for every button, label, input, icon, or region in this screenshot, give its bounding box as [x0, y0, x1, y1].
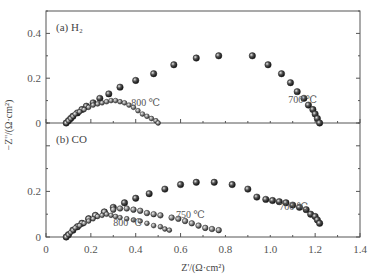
y-tick-label: 0.2	[27, 72, 41, 84]
x-tick-label: 0.4	[129, 243, 143, 255]
data-point	[167, 228, 172, 233]
data-point	[145, 114, 150, 119]
y-tick-label: 0	[36, 117, 42, 129]
x-tick-label: 0.6	[174, 243, 188, 255]
data-point	[287, 79, 293, 85]
data-point	[158, 224, 163, 229]
data-point	[95, 102, 100, 107]
data-point	[77, 223, 82, 228]
data-point	[140, 112, 145, 117]
data-point	[133, 195, 139, 201]
data-point	[151, 223, 156, 228]
data-point	[162, 227, 167, 232]
data-point	[269, 197, 275, 203]
data-point	[316, 120, 322, 126]
data-point	[86, 219, 91, 224]
data-point	[196, 223, 202, 229]
data-point	[245, 186, 251, 192]
data-point	[158, 213, 164, 219]
data-point	[73, 225, 78, 230]
data-point	[193, 55, 199, 61]
data-point	[278, 71, 284, 77]
series-annotation: 700 ℃	[288, 94, 317, 105]
y-tick-label: 0.4	[27, 27, 41, 39]
data-point	[150, 71, 156, 77]
panel-label: (a) H₂	[56, 21, 83, 34]
y-tick-label: 0.2	[27, 185, 41, 197]
data-point	[202, 225, 208, 231]
data-point	[122, 100, 127, 105]
data-point	[265, 62, 271, 68]
data-point	[151, 211, 157, 217]
series-annotation: 700 ℃	[279, 201, 308, 212]
data-point	[118, 99, 123, 104]
data-point	[86, 105, 91, 110]
data-point	[177, 181, 183, 187]
data-point	[249, 53, 255, 59]
data-point	[145, 221, 150, 226]
data-point	[136, 108, 141, 113]
data-point	[77, 109, 82, 114]
data-point	[113, 98, 118, 103]
data-point	[144, 210, 150, 216]
data-point	[216, 227, 222, 233]
data-point	[209, 226, 215, 232]
data-point	[121, 200, 127, 206]
data-point	[106, 91, 112, 97]
y-axis-title: −Z''/(Ω·cm²)	[3, 100, 15, 151]
data-point	[131, 207, 137, 213]
data-point	[149, 116, 154, 121]
x-tick-label: 0.8	[219, 243, 233, 255]
data-point	[171, 62, 177, 68]
data-point	[146, 190, 152, 196]
data-point	[91, 103, 96, 108]
data-point	[137, 208, 143, 214]
data-point	[100, 100, 105, 105]
series-700	[63, 53, 323, 127]
data-point	[211, 179, 217, 185]
x-tick-label: 0	[43, 243, 49, 255]
data-point	[229, 181, 235, 187]
x-tick-label: 0.2	[84, 243, 98, 255]
series-annotation: 750 ℃	[176, 209, 205, 220]
data-point	[156, 121, 161, 126]
data-point	[82, 221, 87, 226]
data-point	[82, 107, 87, 112]
data-point	[216, 53, 222, 59]
data-point	[117, 206, 123, 212]
series-annotation: 800 ℃	[131, 97, 160, 108]
data-point	[100, 213, 105, 218]
x-tick-label: 1.2	[308, 243, 322, 255]
axis-ticks	[46, 11, 360, 237]
panel-label: (b) CO	[56, 133, 87, 146]
data-point	[133, 77, 139, 83]
data-point	[109, 98, 114, 103]
y-tick-label: 0	[36, 231, 42, 243]
data-point	[91, 216, 96, 221]
x-tick-label: 1.0	[263, 243, 277, 255]
data-point	[104, 99, 109, 104]
x-axis-title: Z'/(Ω·cm²)	[181, 262, 224, 274]
data-point	[95, 214, 100, 219]
data-point	[110, 207, 116, 213]
plot-border	[46, 11, 360, 237]
data-point	[193, 179, 199, 185]
nyquist-chart: 00.20.4(a) H₂00.2(b) CO00.20.40.60.81.01…	[0, 0, 376, 280]
series-annotation: 800 ℃	[113, 217, 142, 228]
data-point	[189, 221, 195, 227]
data-point	[162, 186, 168, 192]
axis-labels: 00.20.4(a) H₂00.2(b) CO00.20.40.60.81.01…	[3, 21, 367, 274]
data-point	[254, 194, 260, 200]
plot-frame	[46, 11, 360, 237]
data-point	[117, 84, 123, 90]
data-point	[104, 212, 109, 217]
data-point	[169, 215, 175, 221]
data-point	[263, 196, 269, 202]
x-tick-label: 1.4	[353, 243, 367, 255]
data-point	[124, 206, 130, 212]
data-point	[73, 112, 78, 117]
data-point	[316, 220, 322, 226]
